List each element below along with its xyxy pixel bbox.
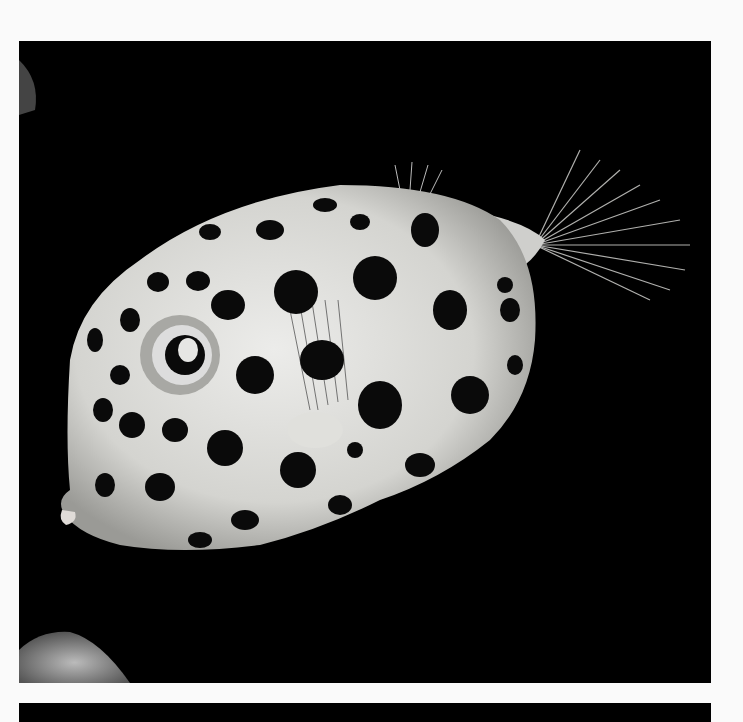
boxfish-illustration [19,41,711,683]
next-photo-edge [19,703,711,722]
boxfish-photo [19,41,711,683]
